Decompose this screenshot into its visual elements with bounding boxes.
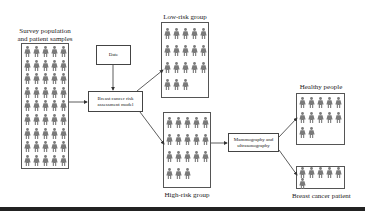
bottom-rule: [0, 207, 365, 211]
arrow-screening-to-healthy: [279, 118, 297, 137]
connector-arrows: [0, 0, 365, 216]
arrow-screening-to-cancer: [279, 150, 297, 175]
arrow-model-to-high: [140, 112, 164, 144]
arrow-model-to-low: [137, 70, 163, 91]
